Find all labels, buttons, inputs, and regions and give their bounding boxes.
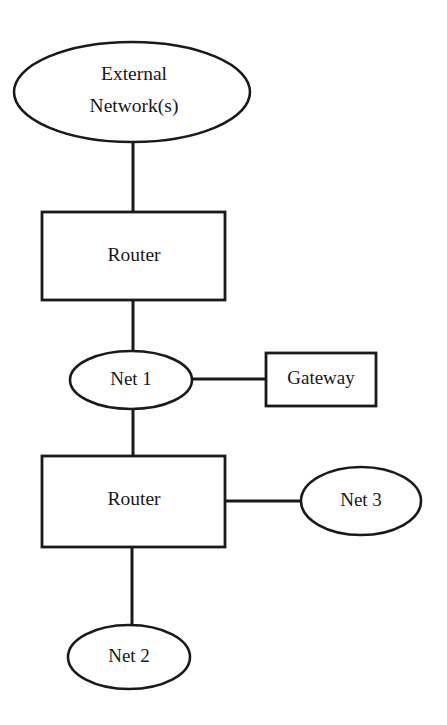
external-network-ellipse-outline (14, 42, 250, 142)
node-gateway[interactable]: Gateway (266, 353, 376, 406)
router-top-label: Router (107, 244, 161, 265)
net2-label: Net 2 (108, 645, 150, 666)
node-net1[interactable]: Net 1 (70, 351, 192, 409)
gateway-label: Gateway (287, 367, 355, 388)
network-topology-diagram: External Network(s) Router Net 1 Gateway… (0, 0, 447, 725)
node-router-top[interactable]: Router (42, 212, 225, 300)
net3-label: Net 3 (340, 489, 382, 510)
node-net3[interactable]: Net 3 (301, 467, 421, 535)
node-net2[interactable]: Net 2 (68, 625, 190, 689)
net1-label: Net 1 (110, 368, 152, 389)
external-network-label-line2: Network(s) (90, 95, 179, 117)
external-network-label-line1: External (101, 63, 168, 84)
node-router-bottom[interactable]: Router (42, 456, 225, 547)
router-bottom-label: Router (107, 488, 161, 509)
node-external-network[interactable]: External Network(s) (14, 42, 250, 142)
